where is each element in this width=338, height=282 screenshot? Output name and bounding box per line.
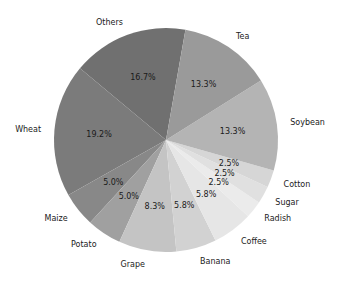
slice-percent-others: 16.7% bbox=[130, 73, 156, 82]
slice-label-maize: Maize bbox=[45, 214, 68, 223]
slice-percent-cotton: 2.5% bbox=[219, 159, 240, 168]
slice-label-tea: Tea bbox=[235, 32, 249, 41]
slice-percent-sugar: 2.5% bbox=[214, 169, 235, 178]
pie-chart: Others16.7%Wheat19.2%Maize5.0%Potato5.0%… bbox=[0, 0, 338, 282]
slice-percent-tea: 13.3% bbox=[191, 80, 217, 89]
slice-percent-coffee: 5.8% bbox=[196, 190, 217, 199]
slice-percent-radish: 2.5% bbox=[209, 178, 230, 187]
slice-label-grape: Grape bbox=[121, 260, 145, 269]
slice-label-coffee: Coffee bbox=[241, 237, 267, 246]
slice-label-banana: Banana bbox=[200, 257, 230, 266]
slice-label-sugar: Sugar bbox=[275, 198, 299, 207]
slice-label-cotton: Cotton bbox=[284, 180, 311, 189]
slice-label-potato: Potato bbox=[71, 240, 97, 249]
slice-label-others: Others bbox=[96, 18, 123, 27]
slice-percent-potato: 5.0% bbox=[119, 192, 140, 201]
slice-percent-grape: 8.3% bbox=[145, 202, 166, 211]
slice-percent-wheat: 19.2% bbox=[86, 130, 112, 139]
pie-slices bbox=[54, 28, 278, 252]
slice-percent-maize: 5.0% bbox=[103, 178, 124, 187]
slice-label-radish: Radish bbox=[264, 214, 291, 223]
slice-label-soybean: Soybean bbox=[290, 118, 325, 127]
slice-label-wheat: Wheat bbox=[15, 125, 41, 134]
slice-percent-banana: 5.8% bbox=[174, 201, 195, 210]
slice-percent-soybean: 13.3% bbox=[220, 127, 246, 136]
